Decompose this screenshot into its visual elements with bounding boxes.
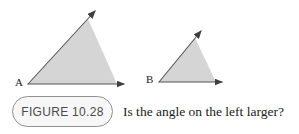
left-triangle-fill (28, 19, 117, 84)
vertex-label-b: B (146, 74, 153, 85)
figure-caption-question: Is the angle on the left larger? (123, 104, 284, 120)
textbook-figure-panel: A B FIGURE 10.28 Is the angle on the lef… (0, 0, 299, 134)
right-triangle-fill (159, 38, 216, 82)
vertex-label-a: A (15, 77, 23, 88)
figure-number-label: FIGURE 10.28 (21, 105, 103, 119)
figure-number-badge: FIGURE 10.28 (12, 96, 113, 127)
